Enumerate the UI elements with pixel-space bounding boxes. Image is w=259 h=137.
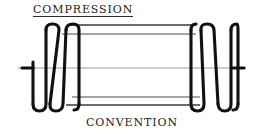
- left-coil-limb-2: [33, 30, 46, 111]
- connector-lines-group: [62, 25, 200, 105]
- right-coil-limb-2: [191, 30, 204, 111]
- left-coil-limb-5: [66, 24, 79, 104]
- drawing-canvas: COMPRESSION CONVENTION: [0, 0, 259, 137]
- figure-caption: CONVENTION: [86, 117, 178, 128]
- page-title: COMPRESSION: [33, 4, 133, 17]
- right-coil-limb-6: [233, 104, 238, 110]
- left-coil-limb-3: [46, 24, 59, 104]
- right-coil-limb-4: [218, 30, 231, 111]
